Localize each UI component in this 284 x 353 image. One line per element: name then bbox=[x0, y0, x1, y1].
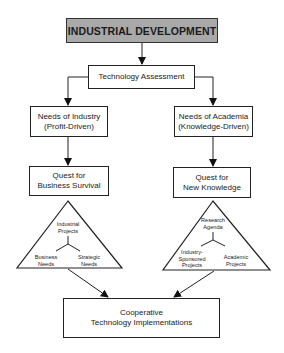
quest-business-line2: Business Survival bbox=[37, 181, 100, 191]
arrow-academia-to-outcome bbox=[174, 271, 214, 297]
quest-business-survival-box: Quest for Business Survival bbox=[29, 166, 109, 196]
industrial-projects-label: Industrial Projects bbox=[57, 221, 80, 234]
outcome-line1: Cooperative bbox=[120, 308, 163, 318]
industry-triangle bbox=[17, 201, 122, 268]
quest-knowledge-line2: New Knowledge bbox=[183, 183, 241, 193]
needs-of-academia-line2: (Knowledge-Driven) bbox=[178, 122, 249, 132]
strategic-needs-label: Strategic Needs bbox=[78, 254, 100, 267]
arrow-assessment-to-academia bbox=[195, 77, 213, 105]
quest-business-line1: Quest for bbox=[53, 171, 86, 181]
business-needs-label: Business Needs bbox=[35, 254, 58, 267]
research-agenda-label: Research Agenda bbox=[201, 217, 225, 230]
needs-of-industry-line1: Needs of Industry bbox=[38, 112, 101, 122]
industry-sponsored-projects-label: Industry- Sponsored Projects bbox=[178, 249, 205, 269]
needs-of-academia-line1: Needs of Academia bbox=[179, 112, 248, 122]
technology-assessment-box: Technology Assessment bbox=[88, 65, 195, 89]
quest-new-knowledge-box: Quest for New Knowledge bbox=[173, 167, 251, 198]
title-text: INDUSTRIAL DEVELOPMENT bbox=[68, 26, 216, 36]
arrow-industry-to-outcome bbox=[68, 269, 108, 297]
title-box: INDUSTRIAL DEVELOPMENT bbox=[66, 18, 218, 43]
academic-projects-label: Academic Projects bbox=[224, 254, 249, 267]
needs-of-academia-box: Needs of Academia (Knowledge-Driven) bbox=[174, 106, 253, 137]
technology-assessment-text: Technology Assessment bbox=[99, 72, 185, 82]
needs-of-industry-box: Needs of Industry (Profit-Driven) bbox=[30, 106, 108, 137]
arrow-assessment-to-industry bbox=[68, 77, 88, 105]
cooperative-technology-implementations-box: Cooperative Technology Implementations bbox=[63, 298, 220, 338]
needs-of-industry-line2: (Profit-Driven) bbox=[44, 122, 94, 132]
quest-knowledge-line1: Quest for bbox=[196, 173, 229, 183]
outcome-line2: Technology Implementations bbox=[91, 318, 192, 328]
